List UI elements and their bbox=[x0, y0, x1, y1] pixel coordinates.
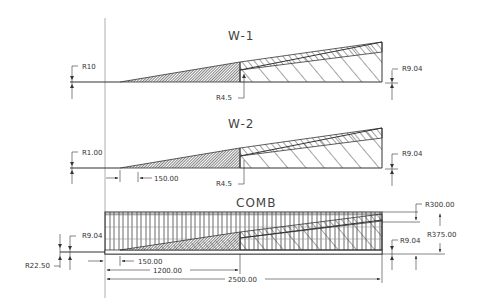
comb-offset-dimension: 150.00 bbox=[138, 258, 163, 266]
w2-offset-dimension: 150.00 bbox=[154, 175, 179, 183]
w2-left-radius: R1.00 bbox=[82, 149, 102, 157]
w1-mid-radius: R4.5 bbox=[216, 94, 232, 102]
view-title-w2: W-2 bbox=[228, 117, 254, 131]
comb-mid-length: 1200.00 bbox=[153, 267, 182, 275]
w1-right-radius: R9.04 bbox=[402, 65, 423, 73]
view-w1: W-1 R10 R4.5 R9.04 bbox=[70, 29, 423, 102]
view-title-comb: COMB bbox=[236, 196, 276, 210]
comb-bottom-left-radius: R22.50 bbox=[25, 262, 50, 270]
view-w2: W-2 R1.00 150.00 R4.5 R9.04 bbox=[70, 117, 423, 188]
w2-mid-radius: R4.5 bbox=[216, 180, 232, 188]
comb-right-radius: R9.04 bbox=[400, 237, 421, 245]
comb-top-radius: R300.00 bbox=[425, 201, 454, 209]
view-comb: COMB R9.04 R22.50 150.00 1200.00 bbox=[25, 196, 456, 284]
comb-total-length: 2500.00 bbox=[228, 276, 257, 284]
w2-right-radius: R9.04 bbox=[402, 150, 423, 158]
w1-left-radius: R10 bbox=[82, 63, 96, 71]
comb-left-radius: R9.04 bbox=[82, 232, 103, 240]
comb-overall-radius: R375.00 bbox=[427, 231, 456, 239]
technical-drawing: W-1 R10 R4.5 R9.04 W-2 R1 bbox=[0, 0, 482, 307]
view-title-w1: W-1 bbox=[228, 29, 254, 43]
